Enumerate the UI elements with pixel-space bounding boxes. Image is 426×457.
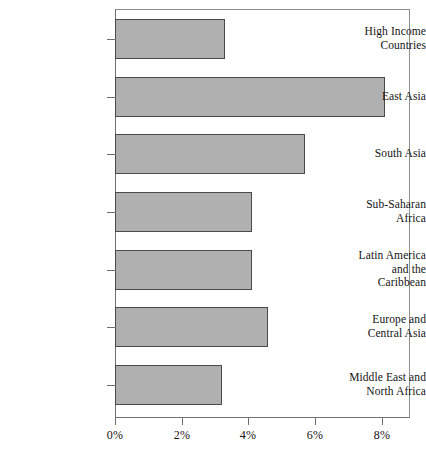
y-tick-sub-saharan-africa <box>107 212 116 213</box>
x-tick-1 <box>182 418 183 425</box>
category-label-line: Countries <box>322 39 426 53</box>
category-label-line: Central Asia <box>322 327 426 341</box>
category-label-line: Middle East and <box>322 371 426 385</box>
category-label-line: and the <box>322 263 426 277</box>
category-label-south-asia: South Asia <box>322 147 426 161</box>
category-label-east-asia: East Asia <box>322 90 426 104</box>
y-tick-east-asia <box>107 97 116 98</box>
x-tick-label-2: 4% <box>223 428 273 442</box>
category-label-middle-east-and-north-africa: Middle East and North Africa <box>322 371 426 398</box>
bar-sub-saharan-africa <box>115 192 252 232</box>
category-label-line: Caribbean <box>322 276 426 290</box>
x-tick-2 <box>248 418 249 425</box>
x-tick-4 <box>382 418 383 425</box>
category-label-sub-saharan-africa: Sub-Saharan Africa <box>322 198 426 225</box>
category-label-latin-america-and-the-caribbean: Latin America and the Caribbean <box>322 249 426 290</box>
bar-latin-america-and-the-caribbean <box>115 250 252 290</box>
category-label-high-income-countries: High Income Countries <box>322 25 426 52</box>
category-label-line: South Asia <box>322 147 426 161</box>
bar-middle-east-and-north-africa <box>115 365 222 405</box>
x-tick-label-0: 0% <box>90 428 140 442</box>
category-label-line: East Asia <box>322 90 426 104</box>
category-label-line: Sub-Saharan <box>322 198 426 212</box>
y-tick-latin-america-and-the-caribbean <box>107 270 116 271</box>
y-tick-middle-east-and-north-africa <box>107 385 116 386</box>
bar-europe-and-central-asia <box>115 307 268 347</box>
bar-chart: High Income Countries East Asia South As… <box>0 0 426 457</box>
x-tick-label-4: 8% <box>357 428 407 442</box>
category-label-line: North Africa <box>322 385 426 399</box>
category-label-line: Latin America <box>322 249 426 263</box>
category-label-line: High Income <box>322 25 426 39</box>
x-tick-label-3: 6% <box>290 428 340 442</box>
y-tick-high-income-countries <box>107 39 116 40</box>
bar-south-asia <box>115 134 305 174</box>
x-tick-3 <box>315 418 316 425</box>
x-tick-label-1: 2% <box>157 428 207 442</box>
y-tick-south-asia <box>107 154 116 155</box>
x-tick-0 <box>115 418 116 425</box>
category-label-line: Africa <box>322 212 426 226</box>
category-label-line: Europe and <box>322 313 426 327</box>
y-tick-europe-and-central-asia <box>107 327 116 328</box>
category-label-europe-and-central-asia: Europe and Central Asia <box>322 313 426 340</box>
bar-high-income-countries <box>115 19 225 59</box>
